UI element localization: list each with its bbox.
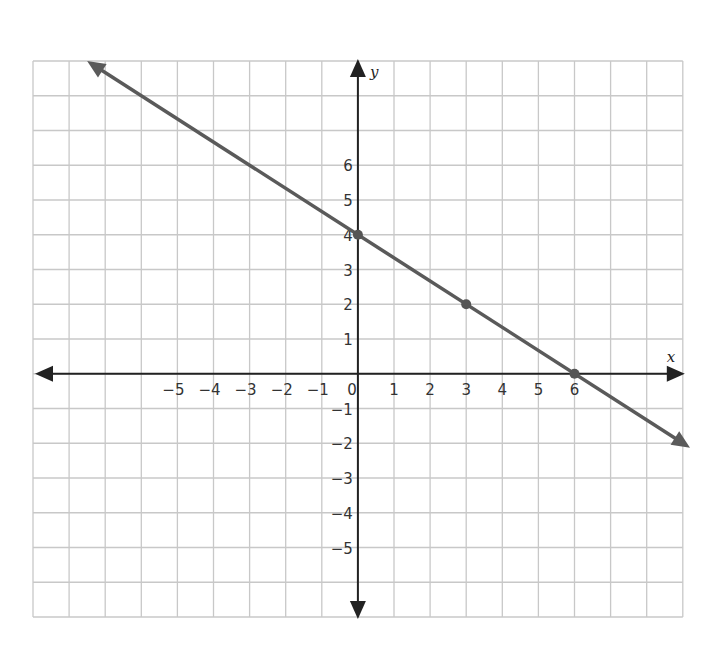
x-tick-label: −1 [307, 381, 329, 399]
line-start-arrow-icon [87, 61, 106, 77]
y-tick-label: −1 [331, 401, 353, 419]
y-tick-label: 2 [343, 296, 353, 314]
x-tick-label: 2 [425, 381, 435, 399]
tick-labels: −5−4−3−2−10123456−5−4−3−2−1123456 [162, 157, 579, 557]
x-tick-label: 4 [498, 381, 508, 399]
line-end-arrow-icon [671, 431, 690, 447]
y-tick-label: −3 [331, 470, 353, 488]
y-tick-label: −4 [331, 505, 353, 523]
y-axis-down-arrow-icon [350, 601, 366, 619]
y-tick-label: 3 [343, 262, 353, 280]
x-axis-left-arrow-icon [35, 366, 53, 382]
x-tick-label: −3 [235, 381, 257, 399]
x-tick-label: 1 [389, 381, 399, 399]
y-tick-label: 6 [343, 157, 353, 175]
y-axis-label: y [369, 63, 379, 81]
data-point [570, 369, 580, 379]
y-tick-label: 1 [343, 331, 353, 349]
y-tick-label: 5 [343, 192, 353, 210]
y-tick-label: −5 [331, 540, 353, 558]
x-tick-label: 3 [461, 381, 471, 399]
x-axis-right-arrow-icon [667, 366, 685, 382]
data-point [353, 230, 363, 240]
x-tick-label: −2 [271, 381, 293, 399]
y-tick-label: −2 [331, 435, 353, 453]
x-tick-label: −5 [162, 381, 184, 399]
x-tick-label: 0 [347, 381, 357, 399]
x-axis-label: x [667, 348, 676, 366]
x-tick-label: 5 [534, 381, 544, 399]
x-tick-label: −4 [198, 381, 220, 399]
y-axis-up-arrow-icon [350, 59, 366, 77]
data-point [461, 299, 471, 309]
coordinate-plane: −5−4−3−2−10123456−5−4−3−2−1123456 x y [0, 0, 716, 658]
x-tick-label: 6 [570, 381, 580, 399]
